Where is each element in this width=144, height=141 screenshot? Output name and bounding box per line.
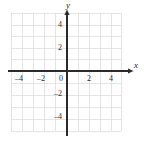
y-tick-label-neg2: –2 xyxy=(52,90,64,98)
x-tick-label-neg4: –4 xyxy=(13,75,25,83)
x-tick-label-2: 2 xyxy=(85,75,93,83)
coordinate-grid xyxy=(0,0,144,141)
horizontal-gridlines xyxy=(11,13,121,131)
y-tick-label-neg4: –4 xyxy=(52,113,64,121)
x-tick-label-0: 0 xyxy=(57,75,65,83)
x-tick-label-neg2: –2 xyxy=(35,75,47,83)
y-tick-label-4: 4 xyxy=(56,21,64,29)
vertical-gridlines xyxy=(11,13,121,131)
coordinate-plane-figure: x y –4 –2 0 2 4 4 2 –2 –4 xyxy=(0,0,144,141)
y-axis-label: y xyxy=(66,1,70,10)
x-axis-arrowhead xyxy=(128,68,134,73)
y-axis-arrowhead xyxy=(64,10,69,16)
x-axis-label: x xyxy=(134,61,138,70)
y-tick-label-2: 2 xyxy=(56,44,64,52)
x-tick-label-4: 4 xyxy=(107,75,115,83)
